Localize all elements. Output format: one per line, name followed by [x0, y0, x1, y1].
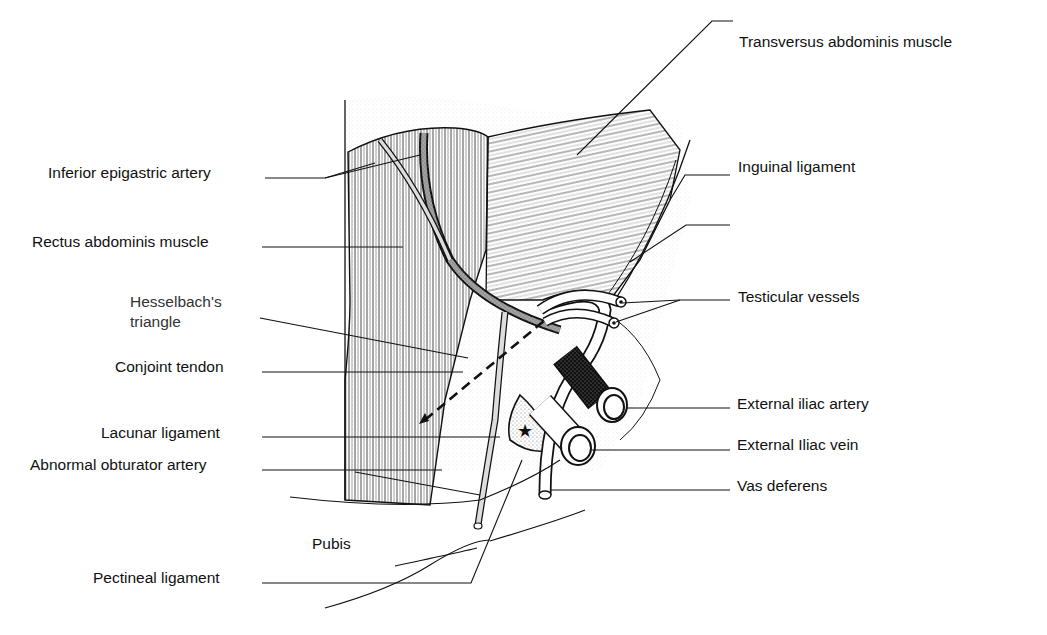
label-lacunar-ligament: Lacunar ligament [101, 424, 220, 442]
label-testicular-vessels: Testicular vessels [738, 288, 859, 306]
label-rectus-abdominis-muscle: Rectus abdominis muscle [32, 233, 209, 251]
star-marker-icon: ★ [517, 420, 533, 441]
label-hesselbachs-triangle-2: triangle [130, 313, 181, 331]
label-pubis: Pubis [312, 535, 351, 553]
label-external-iliac-artery: External iliac artery [737, 395, 869, 413]
label-abnormal-obturator-artery: Abnormal obturator artery [30, 456, 207, 474]
label-conjoint-tendon: Conjoint tendon [115, 358, 224, 376]
label-external-iliac-vein: External Iliac vein [737, 436, 858, 454]
label-inguinal-ligament: Inguinal ligament [738, 158, 855, 176]
label-transversus-abdominis-muscle: Transversus abdominis muscle [739, 33, 952, 51]
label-inferior-epigastric-artery: Inferior epigastric artery [48, 164, 211, 182]
label-vas-deferens: Vas deferens [737, 477, 827, 495]
label-hesselbachs-triangle-1: Hesselbach's [130, 293, 222, 311]
label-pectineal-ligament: Pectineal ligament [93, 569, 220, 587]
